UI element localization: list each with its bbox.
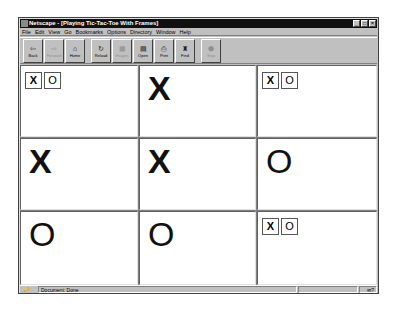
frame-cell-1-2: O [257,138,377,210]
cell-mark: O [148,214,174,254]
mail-icon[interactable]: ✉? [359,286,377,293]
menu-view[interactable]: View [48,28,60,35]
progress-bar [298,286,358,293]
move-choices: X O [262,72,298,89]
cell-mark: X [148,141,171,181]
move-choices: X O [25,72,61,89]
status-text: Document: Done [38,286,297,293]
forward-button[interactable]: ⇨ Forward [44,39,64,63]
home-button[interactable]: ⌂ Home [65,39,85,63]
open-button[interactable]: ▤ Open [133,39,153,63]
security-key-icon: 🔑 [20,286,38,293]
choose-x-button[interactable]: X [25,72,42,89]
cell-mark: O [29,214,55,254]
maximize-button[interactable]: □ [361,20,368,27]
reload-icon: ↻ [98,44,104,53]
forward-arrow-icon: ⇨ [51,44,57,53]
open-icon: ▤ [140,44,147,53]
minimize-button[interactable]: _ [353,20,360,27]
find-button[interactable]: ♜ Find [175,39,195,63]
choose-o-button[interactable]: O [281,218,298,235]
menu-edit[interactable]: Edit [35,28,44,35]
title-bar: Netscape - [Playing Tic-Tac-Toe With Fra… [20,19,377,28]
cell-mark: O [266,141,292,181]
choose-x-button[interactable]: X [262,72,279,89]
menu-bookmarks[interactable]: Bookmarks [76,28,104,35]
status-bar: 🔑 Document: Done ✉? [20,285,377,293]
menu-directory[interactable]: Directory [130,28,152,35]
binoculars-icon: ♜ [182,44,188,53]
frame-cell-2-0: O [20,211,138,285]
menu-go[interactable]: Go [64,28,71,35]
images-button[interactable]: ▦ Images [112,39,132,63]
menu-file[interactable]: File [22,28,31,35]
images-icon: ▦ [119,44,126,53]
frameset-board: X O X X O X X O O O [20,65,377,285]
menu-window[interactable]: Window [156,28,176,35]
back-button[interactable]: ⇦ Back [23,39,43,63]
toolbar: ⇦ Back ⇨ Forward ⌂ Home ↻ Reload ▦ Image… [20,37,377,64]
close-button[interactable]: × [369,20,376,27]
menu-bar: File Edit View Go Bookmarks Options Dire… [20,28,377,36]
menu-help[interactable]: Help [180,28,191,35]
frame-cell-0-0: X O [20,65,138,137]
choose-o-button[interactable]: O [281,72,298,89]
frame-cell-2-2: X O [257,211,377,285]
window-controls: _ □ × [352,20,376,27]
choose-x-button[interactable]: X [262,218,279,235]
print-button[interactable]: ⎙ Print [154,39,174,63]
frame-cell-1-1: X [139,138,256,210]
cell-mark: X [148,68,171,108]
stop-sign-icon: ⬣ [208,44,214,53]
frame-cell-2-1: O [139,211,256,285]
stop-button[interactable]: ⬣ Stop [201,39,221,63]
menu-options[interactable]: Options [107,28,126,35]
browser-window: Netscape - [Playing Tic-Tac-Toe With Fra… [18,17,379,294]
window-title: Netscape - [Playing Tic-Tac-Toe With Fra… [29,19,158,28]
frame-cell-0-1: X [139,65,256,137]
frame-cell-0-2: X O [257,65,377,137]
choose-o-button[interactable]: O [44,72,61,89]
reload-button[interactable]: ↻ Reload [91,39,111,63]
frame-cell-1-0: X [20,138,138,210]
move-choices: X O [262,218,298,235]
netscape-app-icon [21,20,28,27]
cell-mark: X [29,141,52,181]
printer-icon: ⎙ [161,44,167,53]
back-arrow-icon: ⇦ [30,44,36,53]
home-icon: ⌂ [73,44,77,53]
